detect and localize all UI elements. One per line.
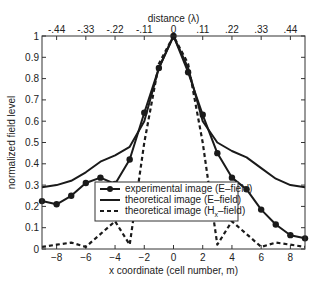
- y-tick-label: 0: [33, 244, 39, 255]
- data-marker: [258, 206, 264, 212]
- top-tick-label: -.44: [48, 24, 66, 35]
- data-marker: [97, 174, 103, 180]
- y-tick-label: 0.6: [25, 116, 39, 127]
- x-axis-label: x coordinate (cell number, m): [109, 265, 238, 276]
- data-marker: [214, 150, 220, 156]
- top-tick-label: .22: [225, 24, 239, 35]
- x-tick-label: 8: [288, 252, 294, 263]
- y-tick-label: 0.2: [25, 201, 39, 212]
- data-marker: [126, 156, 132, 162]
- legend-label-experimental: experimental image (E–field): [125, 183, 252, 194]
- x-tick-label: −6: [80, 252, 92, 263]
- y-tick-label: 0.4: [25, 158, 39, 169]
- legend-label-theoretical-e: theoretical image (E–field): [125, 194, 241, 205]
- y-tick-label: 0.7: [25, 94, 39, 105]
- data-marker: [83, 180, 89, 186]
- top-axis-label: distance (λ): [148, 13, 200, 24]
- top-tick-label: .44: [283, 24, 297, 35]
- y-tick-label: 0.1: [25, 222, 39, 233]
- x-tick-label: −4: [109, 252, 121, 263]
- x-tick-label: 4: [229, 252, 235, 263]
- top-axis-title: distance (λ): [148, 13, 200, 24]
- x-tick-label: −2: [139, 252, 151, 263]
- data-marker: [273, 221, 279, 227]
- top-tick-label: .11: [196, 24, 210, 35]
- top-tick-label: -.33: [77, 24, 95, 35]
- x-tick-label: 0: [171, 252, 177, 263]
- y-tick-label: 0.5: [25, 137, 39, 148]
- y-axis-title: normalized field level: [6, 96, 17, 189]
- data-marker: [68, 193, 74, 199]
- top-tick-label: -.11: [136, 24, 153, 35]
- y-tick-label: 1: [33, 31, 39, 42]
- y-tick-label: 0.8: [25, 73, 39, 84]
- data-marker: [287, 232, 293, 238]
- top-tick-label: -.22: [106, 24, 124, 35]
- legend: experimental image (E–field)theoretical …: [95, 182, 252, 221]
- y-axis-label: normalized field level: [6, 96, 17, 189]
- x-tick-label: 6: [258, 252, 264, 263]
- x-tick-label: 2: [200, 252, 206, 263]
- legend-marker-icon: [107, 186, 113, 192]
- axis-ticks: 00.10.20.30.40.50.60.70.80.91−8−6−4−2024…: [25, 24, 305, 263]
- x-axis-title: x coordinate (cell number, m): [109, 265, 238, 276]
- theoretical-e-field-line: [42, 36, 305, 187]
- y-tick-label: 0.9: [25, 52, 39, 63]
- top-tick-label: .33: [254, 24, 268, 35]
- y-tick-label: 0.3: [25, 180, 39, 191]
- field-level-chart: distance (λ) normalized field level x co…: [0, 0, 322, 286]
- x-tick-label: −8: [51, 252, 63, 263]
- data-marker: [53, 201, 59, 207]
- data-marker: [229, 174, 235, 180]
